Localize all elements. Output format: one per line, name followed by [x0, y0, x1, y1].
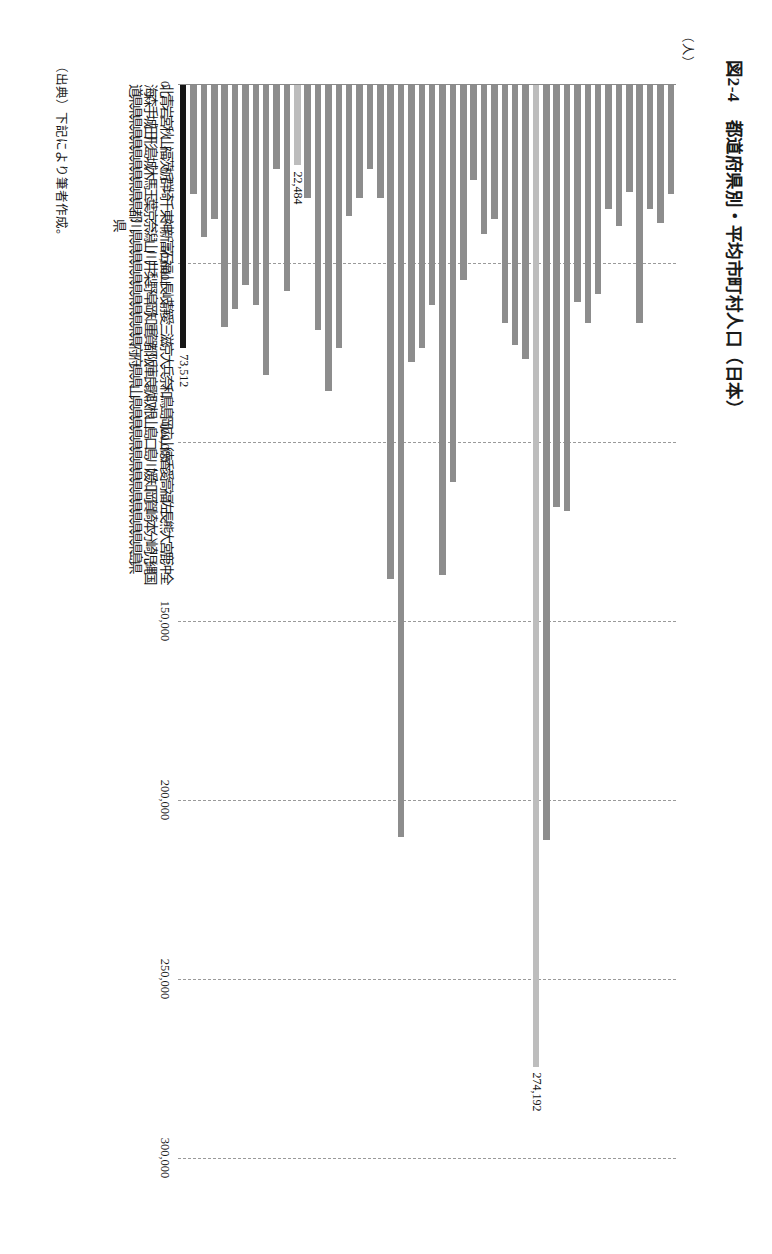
bar-row[interactable] [263, 85, 269, 1158]
bar-row[interactable] [211, 85, 217, 1158]
bar[interactable] [564, 85, 570, 511]
bar[interactable] [460, 85, 466, 280]
bar[interactable] [491, 85, 497, 219]
bar-row[interactable] [636, 85, 642, 1158]
bar[interactable] [253, 85, 259, 305]
bar[interactable] [585, 85, 591, 323]
bar[interactable] [273, 85, 279, 169]
bar[interactable] [512, 85, 518, 345]
bar[interactable] [595, 85, 601, 294]
bar-row[interactable] [304, 85, 310, 1158]
bar[interactable] [668, 85, 674, 194]
bar-row[interactable] [242, 85, 248, 1158]
bar-row[interactable] [273, 85, 279, 1158]
bar-row[interactable] [419, 85, 425, 1158]
bar-row[interactable]: 274,192 [533, 85, 539, 1158]
bar[interactable] [367, 85, 373, 169]
bar-row[interactable] [512, 85, 518, 1158]
bar-row[interactable] [315, 85, 321, 1158]
bar[interactable] [315, 85, 321, 330]
bar-row[interactable] [481, 85, 487, 1158]
bar-row[interactable] [221, 85, 227, 1158]
bar[interactable] [304, 85, 310, 198]
category-label-name: 秋 [159, 126, 175, 136]
bar[interactable] [263, 85, 269, 375]
bar-row[interactable] [668, 85, 674, 1158]
bar-row[interactable] [190, 85, 196, 1158]
category-label: 愛媛県 [128, 468, 175, 478]
bar[interactable] [574, 85, 580, 302]
bar-row[interactable] [564, 85, 570, 1158]
bar-row[interactable] [284, 85, 290, 1158]
bar[interactable] [201, 85, 207, 237]
bar-row[interactable] [367, 85, 373, 1158]
bar-row[interactable] [657, 85, 663, 1158]
bar-row[interactable] [336, 85, 342, 1158]
bar[interactable] [636, 85, 642, 323]
bar[interactable] [522, 85, 528, 359]
bar[interactable] [533, 85, 539, 1067]
bar[interactable] [284, 85, 290, 291]
category-label-suffix: 玉県 [128, 188, 159, 198]
bar-row[interactable] [408, 85, 414, 1158]
bar[interactable] [647, 85, 653, 209]
bar[interactable] [408, 85, 414, 362]
bar-row[interactable] [253, 85, 259, 1158]
bar-row[interactable] [585, 85, 591, 1158]
bar[interactable] [429, 85, 435, 305]
bar-row[interactable] [647, 85, 653, 1158]
bar[interactable] [325, 85, 331, 391]
bar[interactable] [211, 85, 217, 219]
bar-row[interactable] [626, 85, 632, 1158]
bar-row[interactable] [439, 85, 445, 1158]
bar-row[interactable]: 22,484 [294, 85, 300, 1158]
bar-row[interactable] [232, 85, 238, 1158]
bar[interactable] [543, 85, 549, 840]
bar-row[interactable] [346, 85, 352, 1158]
bar-row[interactable] [377, 85, 383, 1158]
bar-row[interactable] [201, 85, 207, 1158]
bar[interactable] [346, 85, 352, 216]
bar[interactable] [221, 85, 227, 327]
bar[interactable] [481, 85, 487, 234]
bar-row[interactable] [460, 85, 466, 1158]
bar-row[interactable] [553, 85, 559, 1158]
bar[interactable] [419, 85, 425, 348]
bar[interactable] [626, 85, 632, 192]
bar[interactable] [502, 85, 508, 323]
bar-row[interactable] [574, 85, 580, 1158]
bar-row[interactable] [325, 85, 331, 1158]
bar-row[interactable] [491, 85, 497, 1158]
bar[interactable] [232, 85, 238, 309]
bar-row[interactable] [502, 85, 508, 1158]
bar[interactable] [356, 85, 362, 198]
bar[interactable] [605, 85, 611, 209]
bar[interactable] [294, 85, 300, 165]
bar[interactable] [398, 85, 404, 837]
bar[interactable] [377, 85, 383, 198]
bar[interactable] [616, 85, 622, 226]
bar[interactable] [190, 85, 196, 194]
bar[interactable] [450, 85, 456, 482]
bar-row[interactable] [605, 85, 611, 1158]
bar-row[interactable] [398, 85, 404, 1158]
bar[interactable] [439, 85, 445, 575]
bar[interactable] [242, 85, 248, 285]
category-label-suffix: 国 [143, 572, 159, 582]
bar-row[interactable] [543, 85, 549, 1158]
bar-row[interactable] [616, 85, 622, 1158]
bar-row[interactable] [429, 85, 435, 1158]
bar-row[interactable] [387, 85, 393, 1158]
bar-row[interactable] [470, 85, 476, 1158]
bar[interactable] [387, 85, 393, 579]
bar[interactable] [336, 85, 342, 348]
bar[interactable] [657, 85, 663, 223]
bar[interactable] [470, 85, 476, 180]
bar-row[interactable] [356, 85, 362, 1158]
bar-row[interactable]: 73,512 [180, 85, 186, 1158]
bar-row[interactable] [450, 85, 456, 1158]
bar[interactable] [553, 85, 559, 507]
bar[interactable] [180, 85, 186, 348]
bar-row[interactable] [595, 85, 601, 1158]
bar-row[interactable] [522, 85, 528, 1158]
